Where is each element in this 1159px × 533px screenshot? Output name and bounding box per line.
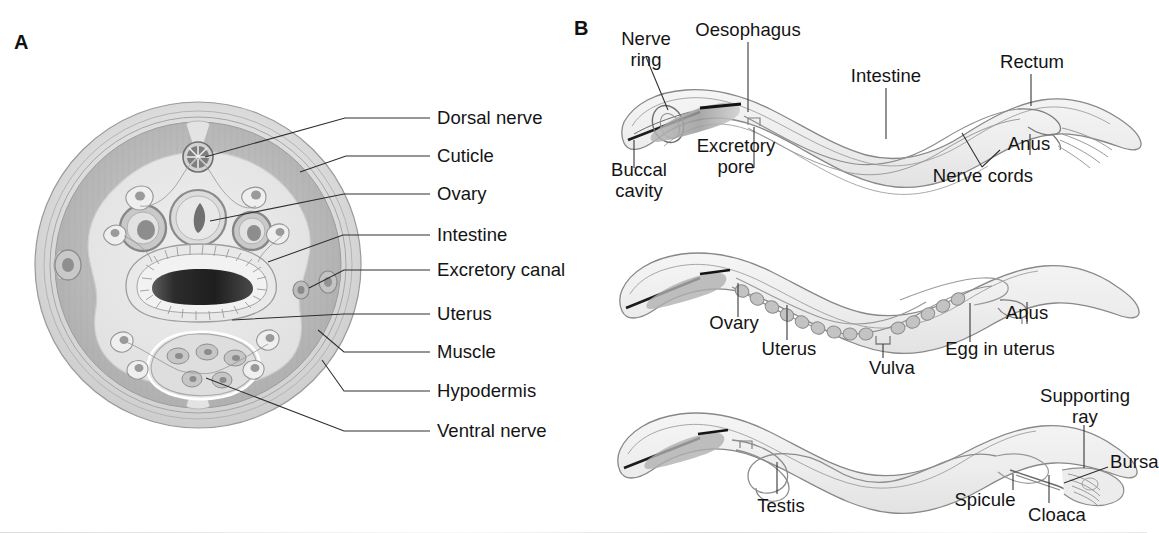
excretory-canal (293, 281, 309, 299)
label-spicule: Spicule (954, 490, 1015, 511)
label-anus-b2: Anus (1006, 303, 1048, 324)
label-excretory-pore: Excretory pore (697, 136, 776, 177)
label-testis: Testis (757, 496, 805, 517)
panel-letter-b: B (574, 18, 589, 38)
uterus-section (147, 332, 259, 399)
label-egg-in-uterus: Egg in uterus (945, 339, 1055, 360)
label-anus-b1: Anus (1008, 134, 1050, 155)
label-excretory-canal: Excretory canal (437, 260, 565, 281)
label-oesophagus: Oesophagus (695, 20, 800, 41)
worm-female-artwork (620, 253, 1139, 354)
label-intestine: Intestine (437, 225, 507, 246)
label-ovary-b2: Ovary (709, 313, 759, 334)
label-rectum: Rectum (1000, 52, 1064, 73)
panel-letter-a: A (14, 32, 29, 52)
label-nerve-cords: Nerve cords (933, 166, 1033, 187)
label-uterus-b2: Uterus (762, 339, 817, 360)
label-ovary: Ovary (437, 184, 487, 205)
label-intestine-b1: Intestine (851, 66, 921, 87)
label-muscle: Muscle (437, 342, 496, 363)
spicule (1010, 470, 1058, 486)
label-bursa: Bursa (1110, 452, 1159, 473)
label-cuticle: Cuticle (437, 146, 494, 167)
ovary-tube (170, 190, 226, 246)
leader-hypodermis (322, 360, 430, 391)
label-supporting-ray: Supporting ray (1040, 386, 1130, 427)
label-uterus: Uterus (437, 304, 492, 325)
label-dorsal-nerve: Dorsal nerve (437, 108, 542, 129)
worm-male-artwork (618, 413, 1137, 514)
gonad-tube-right (233, 212, 271, 250)
gonad-tube-left (120, 205, 166, 251)
cross-section-artwork (35, 102, 361, 428)
label-vulva: Vulva (869, 358, 915, 379)
label-nerve-ring: Nerve ring (621, 29, 671, 70)
label-ventral-nerve: Ventral nerve (437, 421, 547, 442)
label-hypodermis: Hypodermis (437, 381, 536, 402)
label-cloaca: Cloaca (1028, 505, 1086, 526)
label-buccal-cavity: Buccal cavity (611, 160, 667, 201)
